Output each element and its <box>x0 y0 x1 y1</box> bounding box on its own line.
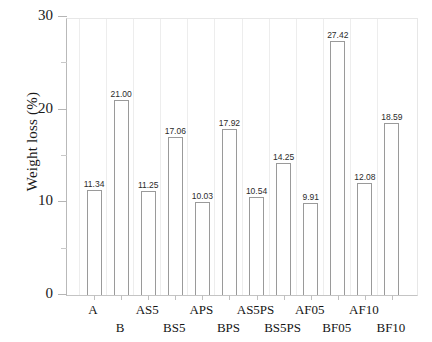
vertical-gridline <box>377 19 378 295</box>
bar: 11.34 <box>87 190 102 295</box>
x-axis-tick-label: B <box>116 320 125 336</box>
y-axis-tick-label: 0 <box>46 285 54 302</box>
y-axis-tick: 10 <box>58 201 67 202</box>
bar-value-label: 17.06 <box>165 126 186 136</box>
vertical-gridline <box>214 19 215 295</box>
vertical-gridline <box>350 19 351 295</box>
bar-value-label: 27.42 <box>327 30 348 40</box>
x-axis-tick-label: AF10 <box>349 302 379 318</box>
x-axis-tick-label: AS5 <box>136 302 159 318</box>
x-axis-tick <box>121 295 122 300</box>
bar-value-label: 21.00 <box>111 89 132 99</box>
y-axis-tick: 0 <box>58 294 67 295</box>
x-axis-tick <box>365 295 366 300</box>
x-axis-tick <box>94 295 95 300</box>
x-axis-tick-label: AS5PS <box>237 302 275 318</box>
y-axis-tick: 30 <box>58 16 67 17</box>
x-axis-tick <box>202 295 203 300</box>
vertical-gridline <box>133 19 134 295</box>
y-axis-title: Weight loss (%) <box>24 32 41 252</box>
x-axis-tick <box>338 295 339 300</box>
bar: 17.92 <box>222 129 237 295</box>
y-axis-minor-tick <box>61 248 67 249</box>
y-axis-tick-label: 30 <box>38 7 53 24</box>
plot-area: 0102030 11.3421.0011.2517.0610.0317.9210… <box>66 18 418 296</box>
bar-value-label: 17.92 <box>219 118 240 128</box>
vertical-gridline <box>296 19 297 295</box>
x-axis-tick <box>257 295 258 300</box>
bar-value-label: 9.91 <box>302 192 319 202</box>
y-axis-tick: 20 <box>58 109 67 110</box>
x-axis-tick-label: BF05 <box>322 320 351 336</box>
vertical-gridline <box>79 19 80 295</box>
x-axis-tick-label: BPS <box>217 320 240 336</box>
bar: 18.59 <box>384 123 399 295</box>
x-axis-tick <box>392 295 393 300</box>
bar-value-label: 14.25 <box>273 152 294 162</box>
bar-value-label: 11.25 <box>138 180 159 190</box>
x-axis-tick-label: BS5PS <box>264 320 301 336</box>
bar: 17.06 <box>168 137 183 295</box>
bar: 10.54 <box>249 197 264 295</box>
x-axis-tick-label: BF10 <box>376 320 405 336</box>
x-axis-tick <box>311 295 312 300</box>
bar: 14.25 <box>276 163 291 295</box>
x-axis-tick <box>148 295 149 300</box>
x-axis-tick-label: A <box>88 302 97 318</box>
vertical-gridline <box>187 19 188 295</box>
bar: 9.91 <box>303 203 318 295</box>
bar: 21.00 <box>114 100 129 295</box>
bar-value-label: 10.54 <box>246 186 267 196</box>
vertical-gridline <box>269 19 270 295</box>
x-axis-tick <box>229 295 230 300</box>
vertical-gridline <box>323 19 324 295</box>
bar: 10.03 <box>195 202 210 295</box>
bar-value-label: 12.08 <box>354 172 375 182</box>
x-axis-tick-label: AF05 <box>295 302 325 318</box>
bar-value-label: 18.59 <box>381 112 402 122</box>
vertical-gridline <box>106 19 107 295</box>
bar-value-label: 10.03 <box>192 191 213 201</box>
bar-value-label: 11.34 <box>84 179 105 189</box>
x-axis-tick <box>175 295 176 300</box>
x-axis-tick <box>284 295 285 300</box>
y-axis-tick-label: 20 <box>38 100 53 117</box>
bar-chart-figure: Weight loss (%) 0102030 11.3421.0011.251… <box>0 0 432 342</box>
y-axis-minor-tick <box>61 155 67 156</box>
bar: 11.25 <box>141 191 156 295</box>
bar: 12.08 <box>357 183 372 295</box>
vertical-gridline <box>160 19 161 295</box>
bar: 27.42 <box>330 41 345 295</box>
y-axis-minor-tick <box>61 62 67 63</box>
x-axis-tick-label: APS <box>189 302 213 318</box>
vertical-gridline <box>242 19 243 295</box>
y-axis-tick-label: 10 <box>38 192 53 209</box>
x-axis-tick-label: BS5 <box>163 320 185 336</box>
